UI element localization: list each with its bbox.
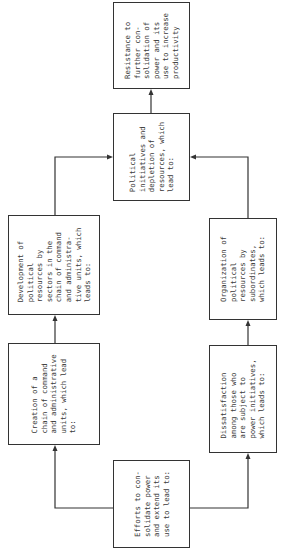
node-resistance-text: Resistance to further con- solidation of… [123, 13, 181, 79]
arrowhead-icon [190, 155, 196, 160]
node-organization: Organization of political resources by s… [209, 218, 277, 320]
node-efforts: Efforts to con- solidate power and exten… [113, 460, 190, 548]
node-efforts-text: Efforts to con- solidate power and exten… [132, 471, 170, 537]
node-creation-text: Creation of a chain of command and admin… [30, 354, 78, 433]
arrowhead-icon [53, 445, 58, 451]
flow-diagram: Resistance to further con- solidation of… [0, 0, 285, 554]
arrowhead-icon [53, 315, 58, 321]
node-political-initiatives: Political initiatives and depletion of r… [113, 113, 190, 201]
arrowhead-icon [149, 89, 154, 95]
node-development-text: Development of political resources by se… [16, 228, 93, 303]
node-development: Development of political resources by se… [8, 215, 100, 315]
arrowhead-icon [246, 320, 251, 326]
edge-efforts-to-dissatisfaction [190, 456, 248, 508]
node-creation: Creation of a chain of command and admin… [8, 343, 100, 445]
node-political-initiatives-text: Political initiatives and depletion of r… [128, 122, 176, 192]
edge-efforts-to-creation [55, 448, 113, 508]
edge-organization-to-political [193, 157, 248, 218]
edge-development-to-political [55, 157, 110, 215]
arrowhead-icon [246, 453, 251, 459]
node-dissatisfaction: Dissatisfaction among those who are subj… [209, 345, 277, 453]
node-resistance: Resistance to further con- solidation of… [113, 2, 190, 89]
node-organization-text: Organization of political resources by s… [219, 236, 267, 302]
node-dissatisfaction-text: Dissatisfaction among those who are subj… [219, 359, 267, 438]
